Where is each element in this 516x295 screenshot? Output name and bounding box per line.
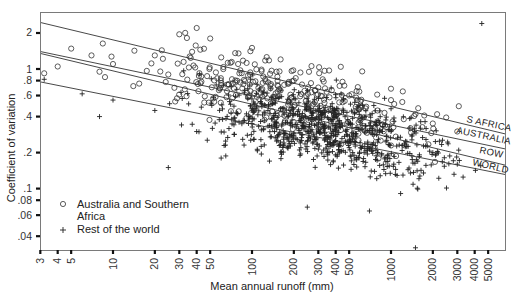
point-plus — [229, 110, 234, 115]
point-plus — [232, 132, 237, 137]
point-plus — [379, 151, 384, 156]
point-plus — [190, 122, 195, 127]
point-plus — [267, 129, 272, 134]
point-circle — [309, 64, 314, 69]
point-plus — [196, 129, 201, 134]
point-plus — [461, 175, 466, 180]
point-plus — [269, 134, 274, 139]
point-circle — [177, 32, 182, 37]
y-axis: 21.8.6.4.2.1.08.06.04 — [17, 26, 40, 241]
point-circle — [149, 61, 154, 66]
point-plus — [291, 92, 296, 97]
point-circle — [208, 36, 213, 41]
y-tick-label: .06 — [17, 209, 32, 221]
point-plus — [423, 119, 428, 124]
plus-marker-icon — [60, 227, 66, 233]
point-circle — [144, 68, 149, 73]
point-plus — [397, 142, 402, 147]
point-plus — [249, 132, 254, 137]
point-plus — [413, 245, 418, 250]
point-plus — [213, 121, 218, 126]
point-plus — [296, 90, 301, 95]
point-plus — [442, 164, 447, 169]
point-plus — [233, 94, 238, 99]
point-plus — [352, 100, 357, 105]
y-tick-label: .08 — [17, 194, 32, 206]
point-plus — [256, 124, 261, 129]
point-plus — [361, 159, 366, 164]
point-plus — [222, 130, 227, 135]
point-plus — [444, 186, 449, 191]
point-plus — [251, 129, 256, 134]
point-circle — [190, 49, 195, 54]
point-plus — [223, 153, 228, 158]
point-circle — [207, 117, 212, 122]
point-plus — [339, 136, 344, 141]
point-circle — [435, 112, 440, 117]
point-circle — [219, 55, 224, 60]
point-plus — [411, 182, 416, 187]
point-plus — [378, 173, 383, 178]
point-circle — [175, 61, 180, 66]
point-plus — [391, 115, 396, 120]
point-circle — [184, 35, 189, 40]
point-plus — [408, 115, 413, 120]
point-plus — [292, 87, 297, 92]
point-plus — [424, 126, 429, 131]
point-circle — [212, 99, 217, 104]
x-tick-label: 1000 — [385, 258, 397, 282]
point-circle — [277, 69, 282, 74]
x-tick-label: 2000 — [426, 258, 438, 282]
point-plus — [341, 163, 346, 168]
point-circle — [69, 46, 74, 51]
point-plus — [358, 140, 363, 145]
y-tick-label: .1 — [23, 182, 32, 194]
x-tick-label: 20 — [148, 258, 160, 270]
point-circle — [201, 46, 206, 51]
point-circle — [360, 69, 365, 74]
point-plus — [278, 156, 283, 161]
point-plus — [354, 164, 359, 169]
point-plus — [199, 105, 204, 110]
point-plus — [351, 162, 356, 167]
x-axis: 3451020304050100200300400500100020003000… — [34, 250, 494, 281]
point-plus — [219, 156, 224, 161]
y-tick-label: .04 — [17, 230, 32, 242]
point-plus — [451, 158, 456, 163]
x-tick-label: 30 — [173, 258, 185, 270]
point-plus — [186, 101, 191, 106]
point-plus — [167, 101, 172, 106]
point-plus — [258, 119, 263, 124]
point-plus — [454, 155, 459, 160]
point-circle — [338, 64, 343, 69]
point-plus — [152, 108, 157, 113]
point-circle — [131, 84, 136, 89]
point-plus — [382, 96, 387, 101]
point-plus — [447, 153, 452, 158]
point-circle — [249, 45, 254, 50]
y-tick-label: .6 — [23, 89, 32, 101]
point-circle — [298, 70, 303, 75]
point-circle — [186, 65, 191, 70]
point-plus — [440, 138, 445, 143]
point-plus — [331, 158, 336, 163]
point-circle — [317, 65, 322, 70]
y-tick-label: .8 — [23, 74, 32, 86]
point-circle — [269, 68, 274, 73]
x-tick-label: 40 — [190, 258, 202, 270]
point-plus — [348, 102, 353, 107]
point-circle — [55, 64, 60, 69]
point-plus — [267, 159, 272, 164]
y-tick-label: .2 — [23, 146, 32, 158]
point-circle — [185, 77, 190, 82]
point-circle — [430, 121, 435, 126]
point-circle — [416, 106, 421, 111]
point-plus — [393, 167, 398, 172]
point-plus — [452, 172, 457, 177]
point-plus — [363, 123, 368, 128]
point-circle — [306, 69, 311, 74]
point-circle — [160, 56, 165, 61]
point-circle — [317, 71, 322, 76]
x-tick-label: 400 — [329, 258, 341, 276]
point-plus — [205, 138, 210, 143]
